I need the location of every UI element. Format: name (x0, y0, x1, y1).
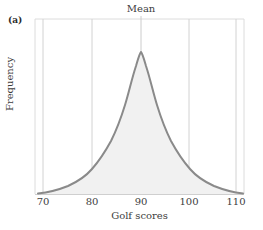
x-tick-label-90: 90 (126, 195, 156, 208)
x-tick-label-110: 110 (221, 195, 251, 208)
figure-panel-a: (a) Mean Frequency 70 80 9 (0, 0, 263, 230)
x-tick-label-100: 100 (174, 195, 204, 208)
x-tick-label-70: 70 (28, 195, 58, 208)
x-axis-ticks: 70 80 90 100 110 (0, 195, 263, 209)
x-axis-label: Golf scores (35, 210, 244, 222)
distribution-area (38, 52, 243, 194)
x-tick-label-80: 80 (77, 195, 107, 208)
